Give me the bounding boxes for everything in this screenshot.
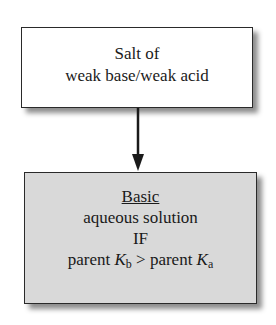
down-arrow-icon	[128, 108, 148, 172]
result-line-2: aqueous solution	[25, 207, 256, 228]
salt-box-line-2: weak base/weak acid	[22, 65, 252, 87]
kb-symbol: K	[114, 250, 125, 269]
result-condition: parent Kb > parent Ka	[25, 249, 256, 270]
condition-left-prefix: parent	[68, 250, 115, 269]
salt-box-line-1: Salt of	[22, 43, 252, 65]
condition-operator: >	[132, 250, 150, 269]
condition-right-prefix: parent	[150, 250, 197, 269]
ka-symbol: K	[197, 250, 208, 269]
ka-subscript: a	[208, 257, 213, 271]
result-box: Basic aqueous solution IF parent Kb > pa…	[24, 172, 257, 304]
result-heading: Basic	[25, 186, 256, 207]
salt-box: Salt of weak base/weak acid	[21, 27, 253, 108]
result-line-3: IF	[25, 228, 256, 249]
